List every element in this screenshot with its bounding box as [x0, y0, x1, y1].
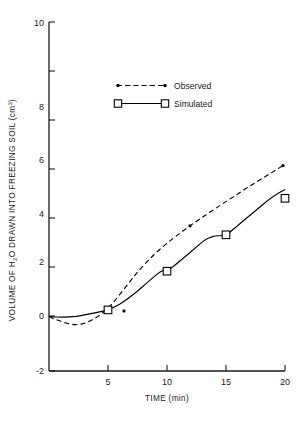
y-axis-title-mid: O DRAWN INTO FREEZING SOIL (cm — [8, 106, 17, 258]
y-tick-label-2: 2 — [39, 257, 44, 267]
simulated-marker-t20 — [281, 195, 289, 203]
legend-entry-simulated: Simulated — [114, 99, 212, 109]
y-tick-label-6: 6 — [39, 155, 44, 165]
y-tick-label-8: 8 — [39, 102, 44, 112]
simulated-marker-t5 — [104, 306, 112, 314]
simulated-marker-t10 — [163, 267, 171, 275]
observed-line — [49, 166, 283, 325]
chart-svg: 10 8 6 4 2 0 -2 5 10 15 20 TIME (min) VO… — [0, 0, 305, 423]
y-axis-title-pre: VOLUME OF H — [8, 261, 17, 321]
x-tick-label-20: 20 — [280, 377, 290, 387]
x-axis-title: TIME (min) — [145, 394, 189, 403]
series-simulated — [49, 190, 289, 317]
y-tick-labels: 10 8 6 4 2 0 -2 — [34, 18, 44, 376]
x-axis-ticks — [108, 365, 285, 371]
y-tick-label-0: 0 — [39, 311, 44, 321]
x-tick-label-5: 5 — [105, 377, 110, 387]
simulated-marker-t15 — [222, 231, 230, 239]
observed-marker-2 — [188, 224, 191, 227]
x-tick-labels: 5 10 15 20 — [105, 377, 290, 387]
legend-marker-simulated-right — [161, 100, 168, 107]
y-tick-label-10: 10 — [34, 18, 44, 28]
chart-legend: Observed Simulated — [114, 81, 212, 109]
simulated-line — [49, 190, 285, 317]
observed-marker-1 — [122, 309, 125, 312]
legend-marker-simulated-left — [114, 100, 121, 107]
x-tick-label-10: 10 — [162, 377, 172, 387]
axes-group — [49, 22, 285, 371]
y-axis-title-post: ) — [8, 99, 17, 102]
observed-marker-3 — [281, 164, 284, 167]
y-tick-label-4: 4 — [39, 209, 44, 219]
series-observed — [49, 164, 285, 325]
x-tick-label-15: 15 — [221, 377, 231, 387]
legend-entry-observed: Observed — [116, 81, 211, 91]
legend-label-observed: Observed — [174, 81, 211, 91]
legend-label-simulated: Simulated — [174, 99, 212, 109]
legend-marker-observed-right — [163, 84, 166, 87]
chart-figure: 10 8 6 4 2 0 -2 5 10 15 20 TIME (min) VO… — [0, 0, 305, 423]
y-axis-title: VOLUME OF H2O DRAWN INTO FREEZING SOIL (… — [7, 99, 18, 321]
legend-marker-observed-left — [116, 84, 119, 87]
y-tick-label-neg2: -2 — [36, 366, 44, 376]
y-axis-ticks — [49, 22, 55, 371]
